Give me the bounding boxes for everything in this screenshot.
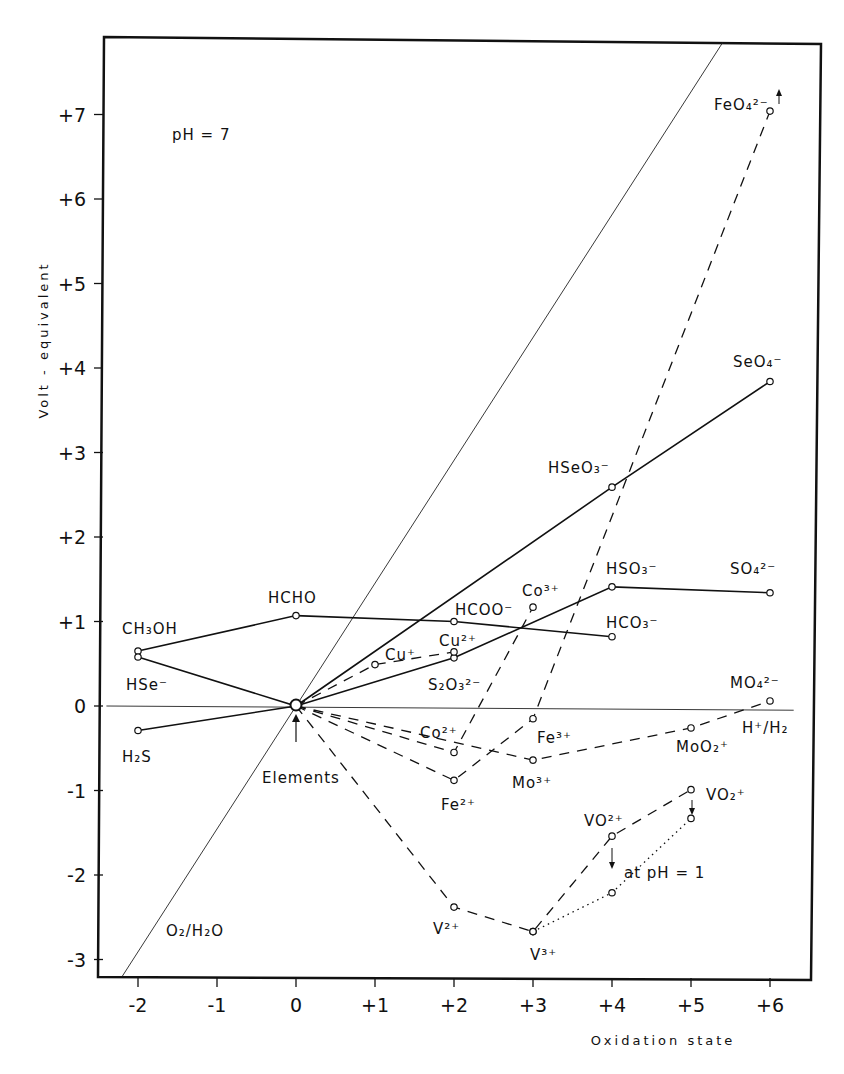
arrow-head-icon bbox=[776, 89, 782, 96]
label-hso3: HSO₃⁻ bbox=[606, 560, 658, 578]
data-point bbox=[530, 928, 536, 934]
label-vo2p: VO²⁺ bbox=[584, 812, 624, 830]
label-vo2plus: VO₂⁺ bbox=[706, 786, 746, 804]
label-hse: HSe⁻ bbox=[126, 676, 168, 694]
x-axis-ticks: -2-10+1+2+3+4+5+6 bbox=[129, 978, 784, 1016]
label-s2o3: S₂O₃²⁻ bbox=[428, 676, 481, 694]
label-cu2: Cu²⁺ bbox=[439, 632, 477, 650]
ph1-annotation: at pH = 1 bbox=[624, 864, 705, 882]
redox-chart: -3-2-10+1+2+3+4+5+6+7 -2-10+1+2+3+4+5+6 … bbox=[0, 0, 844, 1074]
y-tick-label: +4 bbox=[58, 357, 86, 379]
label-moo4: MO₄²⁻ bbox=[730, 674, 780, 692]
label-seo4: SeO₄⁻ bbox=[733, 353, 783, 371]
ph-annotation: pH = 7 bbox=[172, 126, 230, 144]
data-point bbox=[135, 727, 141, 733]
label-h-h2: H⁺/H₂ bbox=[742, 719, 789, 737]
data-point bbox=[609, 890, 615, 896]
data-point bbox=[609, 584, 615, 590]
reference-line bbox=[106, 706, 793, 710]
data-point bbox=[767, 698, 773, 704]
label-moo2: MoO₂⁺ bbox=[676, 738, 729, 756]
y-axis-title: Volt - equivalent bbox=[36, 261, 51, 418]
x-axis-title: Oxidation state bbox=[591, 1033, 736, 1048]
label-o2-h2o: O₂/H₂O bbox=[166, 922, 224, 940]
label-hseo3: HSeO₃⁻ bbox=[548, 459, 610, 477]
x-tick-label: +5 bbox=[677, 994, 705, 1016]
data-point bbox=[767, 590, 773, 596]
series-line bbox=[296, 111, 770, 780]
label-v3: V³⁺ bbox=[530, 946, 557, 964]
y-tick-label: +3 bbox=[58, 442, 86, 464]
data-point bbox=[609, 833, 615, 839]
elements-origin-marker bbox=[291, 700, 302, 711]
label-hcho: HCHO bbox=[268, 589, 317, 607]
data-point bbox=[688, 815, 694, 821]
label-hco3: HCO₃⁻ bbox=[606, 614, 659, 632]
elements-label: Elements bbox=[262, 769, 340, 787]
data-point bbox=[530, 604, 536, 610]
y-tick-label: 0 bbox=[74, 695, 86, 717]
y-tick-label: +1 bbox=[58, 611, 86, 633]
data-point bbox=[293, 612, 299, 618]
y-tick-label: +5 bbox=[58, 273, 86, 295]
label-v2: V²⁺ bbox=[433, 920, 460, 938]
label-cu1: Cu⁺ bbox=[385, 646, 416, 664]
label-hcoo: HCOO⁻ bbox=[455, 601, 513, 619]
plot-frame bbox=[98, 37, 821, 980]
y-tick-label: -2 bbox=[67, 864, 86, 886]
data-point bbox=[530, 715, 536, 721]
data-point bbox=[451, 777, 457, 783]
reference-lines bbox=[106, 43, 793, 977]
y-tick-label: +2 bbox=[58, 526, 86, 548]
x-tick-label: +4 bbox=[598, 994, 626, 1016]
y-tick-label: -1 bbox=[67, 780, 86, 802]
series-line bbox=[138, 616, 612, 651]
data-point bbox=[135, 654, 141, 660]
label-co3: Co³⁺ bbox=[522, 582, 560, 600]
label-mo3: Mo³⁺ bbox=[512, 774, 552, 792]
data-point bbox=[530, 757, 536, 763]
label-h2s: H₂S bbox=[122, 748, 152, 766]
x-tick-label: -1 bbox=[208, 994, 227, 1016]
x-tick-label: -2 bbox=[129, 994, 148, 1016]
label-co2: Co²⁺ bbox=[420, 724, 458, 742]
data-point bbox=[451, 618, 457, 624]
arrow-head-icon bbox=[689, 808, 695, 815]
data-point bbox=[688, 786, 694, 792]
data-point bbox=[609, 634, 615, 640]
data-point bbox=[451, 749, 457, 755]
x-tick-label: +3 bbox=[519, 994, 547, 1016]
x-tick-label: +1 bbox=[361, 994, 389, 1016]
label-so4: SO₄²⁻ bbox=[730, 560, 776, 578]
data-point bbox=[609, 484, 615, 490]
x-tick-label: 0 bbox=[290, 994, 302, 1016]
data-point bbox=[688, 725, 694, 731]
reference-line bbox=[122, 43, 722, 977]
y-tick-label: +7 bbox=[58, 104, 86, 126]
data-point bbox=[767, 378, 773, 384]
data-point bbox=[372, 661, 378, 667]
label-fe3: Fe³⁺ bbox=[537, 729, 572, 747]
label-feo4: FeO₄²⁻ bbox=[714, 96, 769, 114]
arrow-head-icon bbox=[292, 714, 300, 722]
y-tick-label: +6 bbox=[58, 188, 86, 210]
y-axis-ticks: -3-2-10+1+2+3+4+5+6+7 bbox=[58, 104, 103, 971]
label-ch3oh: CH₃OH bbox=[122, 620, 178, 638]
y-tick-label: -3 bbox=[67, 949, 86, 971]
series-line bbox=[296, 607, 533, 752]
arrow-head-icon bbox=[609, 862, 615, 869]
x-tick-label: +6 bbox=[756, 994, 784, 1016]
x-tick-label: +2 bbox=[440, 994, 468, 1016]
data-point bbox=[451, 904, 457, 910]
label-fe2: Fe²⁺ bbox=[441, 796, 476, 814]
